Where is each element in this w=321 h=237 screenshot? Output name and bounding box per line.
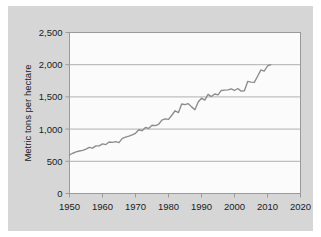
y-tick-label: 1,500 [39, 91, 63, 102]
x-tick-label: 1960 [92, 201, 113, 212]
line-chart: 05001,0001,5002,0002,500 195019601970198… [0, 0, 321, 237]
y-axis-title: Metric tons per hectare [22, 64, 33, 161]
x-tick-label: 2020 [290, 201, 311, 212]
y-tick-label: 0 [57, 188, 62, 199]
x-tick-label: 1970 [125, 201, 146, 212]
y-tick-label: 2,500 [39, 27, 63, 38]
y-axis-tick-labels: 05001,0001,5002,0002,500 [39, 27, 63, 199]
x-tick-label: 2000 [224, 201, 245, 212]
y-tick-label: 2,000 [39, 59, 63, 70]
y-axis-ticks [66, 33, 70, 194]
x-tick-label: 2010 [257, 201, 278, 212]
x-axis-ticks [70, 194, 301, 198]
plot-area [70, 33, 301, 194]
y-tick-label: 500 [47, 156, 63, 167]
x-axis-tick-labels: 19501960197019801990200020102020 [59, 201, 311, 212]
chart-figure: 05001,0001,5002,0002,500 195019601970198… [0, 0, 321, 237]
x-tick-label: 1990 [191, 201, 212, 212]
x-tick-label: 1950 [59, 201, 80, 212]
x-tick-label: 1980 [158, 201, 179, 212]
y-tick-label: 1,000 [39, 124, 63, 135]
